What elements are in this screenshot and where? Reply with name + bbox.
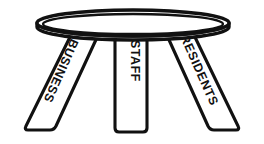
stool-seat (37, 10, 229, 40)
stool-drawing: BUSINESS STAFF RESIDENTS (0, 0, 264, 144)
three-legged-stool-figure: BUSINESS STAFF RESIDENTS (0, 0, 264, 144)
leg-residents: RESIDENTS (165, 31, 239, 130)
leg-staff: STAFF (115, 31, 147, 132)
leg-staff-label: STAFF (128, 40, 142, 82)
leg-business: BUSINESS (25, 31, 100, 130)
